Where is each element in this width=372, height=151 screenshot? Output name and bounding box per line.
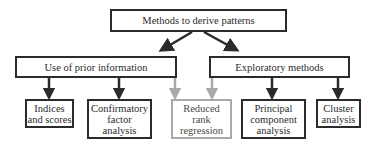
root-label: Methods to derive patterns [142,15,254,26]
leaf-label: Confirmatory factor analysis [91,103,148,136]
leaf-label: Cluster analysis [322,103,356,125]
leaf-reduced-rank-regression: Reduced rank regression [171,99,232,139]
branch-prior-information: Use of prior information [15,56,177,78]
leaf-label: Principal component analysis [250,103,297,136]
leaf-confirmatory-factor-analysis: Confirmatory factor analysis [87,99,152,139]
arrow-root-to-exploratory [204,32,233,48]
leaf-principal-component-analysis: Principal component analysis [241,99,306,139]
root-node: Methods to derive patterns [110,9,287,32]
leaf-indices-and-scores: Indices and scores [25,99,74,128]
branch-label: Use of prior information [45,62,148,73]
branch-label: Exploratory methods [235,62,323,73]
leaf-label: Reduced rank regression [180,103,223,136]
leaf-cluster-analysis: Cluster analysis [316,99,361,128]
branch-exploratory-methods: Exploratory methods [209,56,350,78]
leaf-label: Indices and scores [27,103,71,125]
arrow-root-to-prior [165,32,192,48]
